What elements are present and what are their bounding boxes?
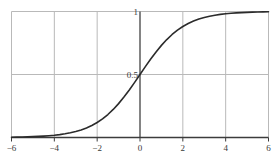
x-tick-label: 2 <box>181 144 186 153</box>
x-tick-label: 6 <box>266 144 271 153</box>
x-tick-label: −2 <box>92 144 102 153</box>
y-tick-label: 0.5 <box>127 70 138 79</box>
x-tick-label: −4 <box>50 144 60 153</box>
plot-canvas <box>0 0 278 162</box>
x-tick-label: −6 <box>7 144 17 153</box>
y-tick-label: 1 <box>134 7 139 16</box>
x-tick-label: 0 <box>138 144 143 153</box>
sigmoid-chart-figure: −6−4−20246 0.51 <box>0 0 278 162</box>
x-tick-label: 4 <box>223 144 228 153</box>
